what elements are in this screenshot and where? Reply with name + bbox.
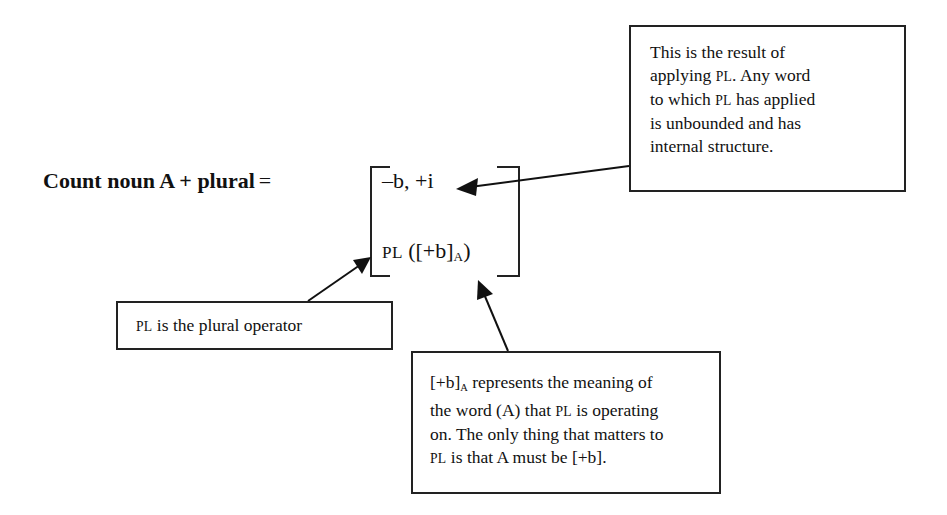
text: internal structure. <box>650 136 773 156</box>
plural-operator-symbol: PL <box>382 243 403 262</box>
text: [+b] <box>430 372 460 392</box>
callout-line: on. The only thing that matters to <box>430 423 709 446</box>
text: . Any word <box>732 65 810 85</box>
formula-title: Count noun A + plural= <box>43 168 271 194</box>
operation-subscript: A <box>454 249 464 264</box>
callout-line: to which PL has applied <box>650 88 890 112</box>
operation-open: ([+b] <box>403 238 454 263</box>
equals-sign: = <box>259 168 271 193</box>
callout-line: applying PL. Any word <box>650 64 890 88</box>
text: represents the meaning of <box>468 372 653 392</box>
text: This is the result of <box>650 42 785 62</box>
callout-line: This is the result of <box>650 41 890 64</box>
callout-line: is unbounded and has <box>650 112 890 135</box>
subscript: A <box>460 382 468 393</box>
text: is operating <box>572 400 659 420</box>
arrow-meaning-to-argument <box>477 280 508 351</box>
callout-line: [+b]A represents the meaning of <box>430 371 709 399</box>
text: the word (A) that <box>430 400 555 420</box>
callout-operator-text: is the plural operator <box>152 315 302 335</box>
text: applying <box>650 65 716 85</box>
callout-operator-box: PL is the plural operator <box>116 301 393 350</box>
text: has applied <box>732 89 816 109</box>
text: is unbounded and has <box>650 113 801 133</box>
pl-symbol: PL <box>715 93 731 108</box>
pl-symbol: PL <box>555 404 571 419</box>
callout-line: the word (A) that PL is operating <box>430 399 709 423</box>
text: to which <box>650 89 715 109</box>
arrow-result-to-row1 <box>456 166 629 196</box>
matrix-row-features: –b, +i <box>382 168 434 194</box>
pl-symbol: PL <box>430 451 446 466</box>
right-bracket <box>497 167 519 276</box>
callout-meaning-box: [+b]A represents the meaning of the word… <box>411 351 721 494</box>
text: is that A must be [+b]. <box>446 447 606 467</box>
matrix-row-operation: PL ([+b]A) <box>382 238 470 265</box>
callout-line: PL is that A must be [+b]. <box>430 446 709 470</box>
text: on. The only thing that matters to <box>430 424 663 444</box>
callout-result-box: This is the result of applying PL. Any w… <box>629 25 906 192</box>
pl-symbol: PL <box>136 319 152 334</box>
operation-close: ) <box>463 238 470 263</box>
formula-label: Count noun A + plural <box>43 168 255 193</box>
arrow-operator-to-pl <box>308 257 371 301</box>
callout-line: internal structure. <box>650 135 890 158</box>
pl-symbol: PL <box>716 69 732 84</box>
